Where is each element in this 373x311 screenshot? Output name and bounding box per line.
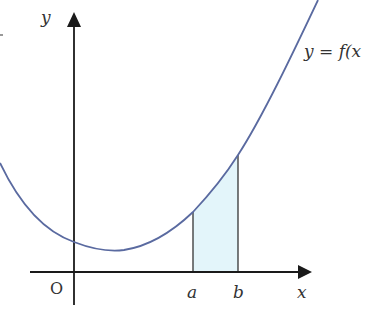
- curve-f: [0, 0, 318, 251]
- curve-label: y = f(x: [303, 41, 362, 61]
- x-axis-arrow-icon: [298, 265, 312, 279]
- y-axis-label: y: [40, 7, 51, 27]
- a-label: a: [187, 282, 197, 302]
- b-label: b: [233, 282, 244, 302]
- shaded-area: [193, 155, 238, 272]
- y-axis-arrow-icon: [67, 12, 81, 27]
- origin-label: O: [50, 279, 63, 298]
- diagram-canvas: y x O a b y = f(x: [0, 0, 373, 311]
- x-axis-label: x: [297, 282, 307, 302]
